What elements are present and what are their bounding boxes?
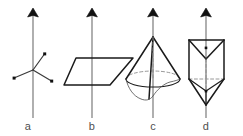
arrow-head-a [28, 8, 39, 17]
panel-label-a: a [25, 120, 32, 132]
panel-c: c [126, 8, 180, 132]
panel-label-c: c [150, 120, 156, 132]
pyramid-edge-left [189, 79, 206, 105]
panel-d: d [189, 8, 224, 132]
prism-top-edge-right [206, 40, 224, 59]
bond-a-2 [14, 70, 33, 78]
pyramid-front-right [206, 79, 224, 91]
panel-label-b: b [89, 120, 95, 132]
bond-a-1 [33, 54, 45, 70]
ligand-dot-a-1 [43, 52, 46, 55]
mirror-plane-parallelogram [64, 58, 133, 85]
arrow-head-d [201, 8, 212, 17]
prism-center-dot-bottom [205, 90, 208, 93]
panel-b: b [64, 8, 133, 132]
arrow-head-b [87, 8, 98, 17]
prism-top-edge-left [189, 40, 206, 59]
arrow-head-c [148, 8, 159, 17]
prism-center-dot-top [205, 47, 208, 50]
bond-a-3 [33, 70, 52, 81]
pyramid-front-left [189, 79, 206, 91]
ligand-dot-a-2 [13, 77, 16, 80]
symmetry-elements-diagram: a b c [0, 0, 243, 136]
cone-slant-right [153, 37, 180, 79]
pyramid-edge-right [206, 79, 224, 105]
panel-a: a [13, 8, 54, 132]
figure-container: a b c [0, 0, 243, 136]
ligand-dot-a-3 [50, 80, 53, 83]
panel-label-d: d [203, 120, 209, 132]
cone-apex-to-rim [149, 37, 153, 99]
